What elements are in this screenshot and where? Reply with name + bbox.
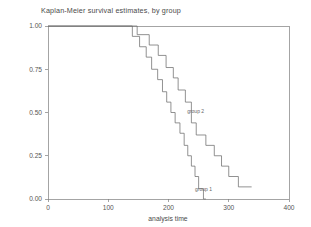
chart-title: Kaplan-Meier survival estimates, by grou… [41,6,181,15]
y-tick-label: 1.00 [29,22,42,29]
x-tick-label: 400 [283,204,294,211]
annotation-group-1: group 1 [195,186,212,192]
x-tick-label: 0 [46,204,50,211]
chart-background [0,0,311,227]
x-tick-label: 200 [163,204,174,211]
kaplan-meier-chart: Kaplan-Meier survival estimates, by grou… [0,0,311,227]
y-tick-label: 0.25 [29,152,42,159]
x-tick-label: 300 [223,204,234,211]
x-tick-label: 100 [103,204,114,211]
annotation-group-2: group 2 [187,108,204,114]
y-tick-label: 0.00 [29,195,42,202]
chart-canvas: Kaplan-Meier survival estimates, by grou… [0,0,311,227]
y-tick-label: 0.75 [29,66,42,73]
y-tick-label: 0.50 [29,109,42,116]
x-axis-title: analysis time [148,215,188,223]
